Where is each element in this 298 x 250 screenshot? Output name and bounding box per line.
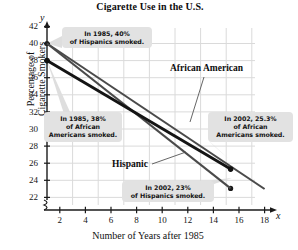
x-tick-label: 8 <box>130 215 144 225</box>
x-tick-label: 6 <box>104 215 118 225</box>
annotation-callout-african-1985: In 1985, 38% of African Americans smoked… <box>44 112 122 142</box>
x-axis <box>44 207 277 213</box>
x-tick-label: 2 <box>53 215 67 225</box>
annotation-callout-african-2002: In 2002, 25.3% of African Americans smok… <box>208 112 293 142</box>
annotation-callout-hispanic-1985: In 1985, 40% of Hispanics smoked. <box>62 27 152 48</box>
axis-break-symbol <box>44 200 47 210</box>
series-leader-lines <box>152 77 204 164</box>
callout-line2: of African <box>211 123 290 131</box>
y-tick-label: 28 <box>22 141 38 151</box>
y-tick-label: 38 <box>22 55 38 65</box>
callout-line2: of African <box>47 123 119 131</box>
chart-title: Cigarette Use in the U.S. <box>62 1 238 12</box>
leader-african-american <box>190 77 204 122</box>
callout-line1: In 2002, 23% <box>125 184 211 192</box>
callout-line1: In 2002, 25.3% <box>211 115 290 123</box>
cigarette-use-chart-figure: Cigarette Use in the U.S. y x Percentage… <box>0 0 298 250</box>
leader-hispanic <box>152 152 186 164</box>
x-tick-label: 18 <box>258 215 272 225</box>
x-tick-label: 12 <box>181 215 195 225</box>
y-tick-label: 24 <box>22 175 38 185</box>
callout-line1: In 1985, 38% <box>47 115 119 123</box>
series-label-african-american: African American <box>170 63 243 73</box>
callout-line2: of Hispanics smoked. <box>125 192 211 200</box>
callout-line3: Americans smoked. <box>47 131 119 139</box>
x-tick-label: 16 <box>232 215 246 225</box>
y-tick-label: 34 <box>22 89 38 99</box>
y-tick-label: 30 <box>22 124 38 134</box>
x-tick-label: 4 <box>78 215 92 225</box>
x-tick-label: 14 <box>206 215 220 225</box>
x-axis-title: Number of Years after 1985 <box>48 230 248 241</box>
callout-line2: of Hispanics smoked. <box>65 38 149 46</box>
series-label-hispanic: Hispanic <box>112 159 148 169</box>
datapoint-african-2002 <box>228 166 234 172</box>
x-axis-variable-label: x <box>276 210 280 221</box>
y-tick-label: 22 <box>22 192 38 202</box>
y-tick-label: 36 <box>22 72 38 82</box>
y-tick-label: 42 <box>22 21 38 31</box>
annotation-callout-hispanic-2002: In 2002, 23% of Hispanics smoked. <box>122 181 214 202</box>
x-tick-label: 10 <box>155 215 169 225</box>
callout-line1: In 1985, 40% <box>65 30 149 38</box>
y-tick-label: 40 <box>22 38 38 48</box>
y-tick-label: 32 <box>22 107 38 117</box>
y-tick-label: 26 <box>22 158 38 168</box>
callout-line3: Americans smoked. <box>211 131 290 139</box>
